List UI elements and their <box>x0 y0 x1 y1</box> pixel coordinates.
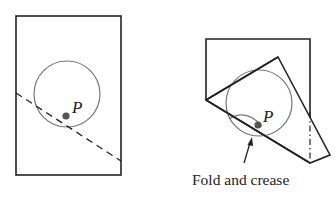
paper-rectangle <box>16 16 121 175</box>
point-p-dot <box>62 112 69 119</box>
diagram-canvas: P P Fold and crease <box>0 0 335 203</box>
folded-paper-figure: P Fold and crease <box>192 39 330 188</box>
flat-paper-figure: P <box>16 16 121 175</box>
point-p-label: P <box>71 98 82 117</box>
point-p-label: P <box>262 107 273 126</box>
fold-line-dashed <box>16 93 121 161</box>
arrow-icon <box>244 137 253 163</box>
point-p-dot <box>254 121 261 128</box>
caption-fold-and-crease: Fold and crease <box>192 171 289 188</box>
